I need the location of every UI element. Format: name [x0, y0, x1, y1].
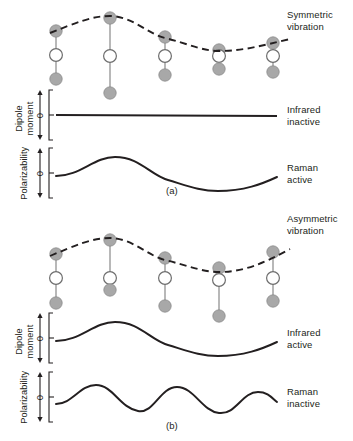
asymmetric-polarizability-curve	[56, 385, 277, 413]
panel-a-polarizability-zero-label: 0	[34, 171, 45, 176]
panel-b-polarizability-axis-label: Polarizability	[19, 364, 30, 430]
panel-a-polarizability-axis-label: Polarizability	[19, 140, 30, 206]
panel-a-caption: (a)	[166, 185, 178, 196]
molecule-symmetric-2	[104, 12, 117, 99]
infrared-active-label: Infrared active	[287, 327, 321, 350]
molecule-asymmetric-4	[213, 262, 226, 322]
panel-b-molecules	[50, 234, 290, 322]
panel-a-molecules	[50, 12, 290, 99]
molecule-symmetric-1	[50, 25, 63, 85]
panel-b-dipole-axis-label: Dipole moment	[13, 318, 34, 366]
symmetric-dipole-curve	[56, 115, 277, 116]
molecule-symmetric-4	[213, 44, 226, 75]
panel-b-polarizability-zero-label: 0	[34, 395, 45, 400]
panel-a-dipole-axis-label: Dipole moment	[13, 95, 34, 143]
molecule-asymmetric-3	[159, 252, 172, 312]
panel-b-caption: (b)	[166, 420, 178, 431]
infrared-inactive-label: Infrared inactive	[287, 104, 321, 127]
asymmetric-vibration-label: Asymmetric vibration	[287, 213, 338, 236]
raman-active-label: Raman active	[287, 162, 318, 185]
asymmetric-dipole-curve	[56, 322, 277, 356]
panel-a-dipole-zero-label: 0	[34, 113, 45, 118]
molecule-symmetric-3	[159, 31, 172, 81]
vibration-figure: Symmetric vibration Dipole moment 0 Infr…	[0, 0, 353, 441]
panel-b-dipole-zero-label: 0	[34, 336, 45, 341]
symmetric-vibration-label: Symmetric vibration	[287, 9, 333, 32]
symmetric-envelope-curve	[50, 16, 290, 51]
asymmetric-envelope-curve	[50, 238, 290, 272]
molecule-symmetric-5	[267, 37, 280, 78]
molecule-asymmetric-2	[104, 234, 117, 296]
molecule-asymmetric-5	[267, 246, 280, 307]
molecule-asymmetric-1	[50, 248, 63, 309]
raman-inactive-label: Raman inactive	[287, 386, 320, 409]
